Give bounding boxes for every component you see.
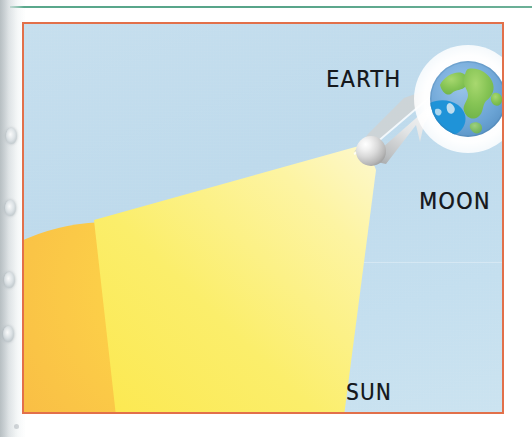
page-top-rule xyxy=(10,6,532,8)
scan-speck xyxy=(14,424,19,429)
binding-hole xyxy=(6,128,17,144)
binding-hole xyxy=(4,272,15,288)
binding-hole xyxy=(3,326,14,342)
earth-globe xyxy=(428,59,504,139)
moon-sphere xyxy=(356,136,386,166)
illustration-frame: EARTH MOON SUN xyxy=(22,22,504,414)
book-page-scan: EARTH MOON SUN xyxy=(0,0,532,437)
label-moon: MOON xyxy=(419,188,491,215)
label-earth: EARTH xyxy=(326,66,401,93)
binding-hole xyxy=(5,200,16,216)
label-sun: SUN xyxy=(346,379,392,406)
